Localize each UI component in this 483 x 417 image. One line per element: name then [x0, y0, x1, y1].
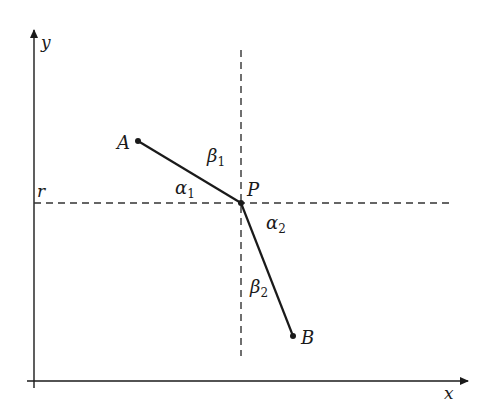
point-B-label: B	[300, 327, 314, 348]
reference-line-label: r	[37, 181, 46, 201]
y-axis-label: y	[40, 32, 51, 52]
angle-beta2-label: β2	[249, 276, 268, 300]
refraction-diagram: y x r A P B α1 β1 α2 β2	[0, 0, 483, 417]
angle-alpha1-label: α1	[175, 177, 195, 201]
point-B	[290, 333, 296, 339]
point-A	[135, 138, 141, 144]
point-P-label: P	[246, 179, 260, 200]
angle-alpha2-label: α2	[266, 212, 286, 236]
angle-beta1-label: β1	[206, 145, 225, 169]
x-axis-label: x	[444, 383, 454, 403]
point-A-label: A	[115, 132, 130, 153]
point-P	[238, 200, 244, 206]
